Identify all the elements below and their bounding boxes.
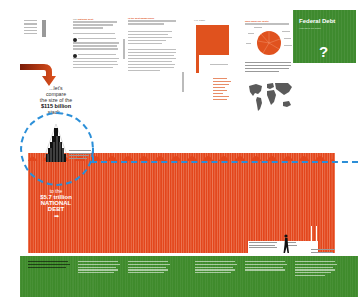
national-debt-label: to the $5.7 trillion NATIONAL DEBT ➡ xyxy=(28,188,84,219)
question-mark-icon: ? xyxy=(319,44,328,59)
intro-column: The National Debt xyxy=(73,18,121,70)
comparison-circle xyxy=(20,112,94,186)
person-walking-icon xyxy=(282,234,290,258)
pie-labels xyxy=(250,25,295,65)
grid-chart-caption xyxy=(210,64,228,67)
dashed-line xyxy=(91,161,358,163)
side-column: Is the debt dangerous? xyxy=(128,17,180,73)
pie-description xyxy=(245,62,293,74)
ruler-icon xyxy=(311,226,317,248)
ruler-annotation xyxy=(311,249,337,254)
grid-chart-title: U.S. DEBT xyxy=(194,19,234,21)
footer-panel xyxy=(20,256,358,297)
world-map-icon xyxy=(246,80,294,115)
page-title: Federal Debt xyxy=(299,18,335,24)
bullet-2-icon xyxy=(73,54,77,58)
page-subtitle: How big is our debt? xyxy=(299,27,321,30)
title-card: Federal Debt How big is our debt? ? xyxy=(293,10,356,63)
right-arrow-icon: ➡ xyxy=(28,213,84,219)
legend xyxy=(24,20,46,38)
bullet-1-icon xyxy=(73,38,77,42)
dashed-connector xyxy=(88,148,94,161)
grid-chart-note xyxy=(213,78,235,102)
compare-text: ...let's compare the size of the $115 bi… xyxy=(28,85,84,115)
